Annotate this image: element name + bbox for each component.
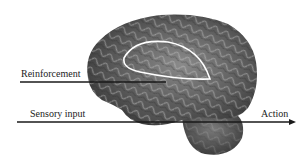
cerebrum <box>87 14 257 125</box>
sensory-input-label: Sensory input <box>30 108 85 119</box>
reinforcement-label: Reinforcement <box>21 68 80 79</box>
cerebellum <box>182 112 243 155</box>
brain-diagram <box>0 0 308 165</box>
arrowhead-icon <box>289 119 296 125</box>
action-label: Action <box>261 108 288 119</box>
